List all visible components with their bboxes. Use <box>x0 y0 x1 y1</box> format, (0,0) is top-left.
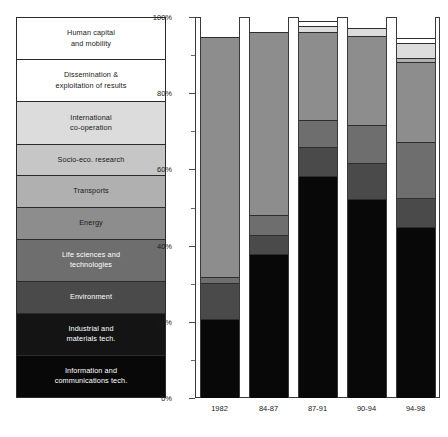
bar-segment <box>250 236 288 255</box>
legend-item: Energy <box>17 208 165 240</box>
bar-segment <box>397 228 435 398</box>
legend-item-label: Transports <box>73 186 109 197</box>
bar-segment <box>348 164 386 200</box>
bar-segment <box>348 200 386 398</box>
bar-segment <box>299 121 337 149</box>
y-axis-tick <box>189 93 195 94</box>
category-legend: Human capital and mobilityDissemination … <box>16 17 166 398</box>
bar-segment <box>397 63 435 143</box>
y-axis-tick <box>189 246 195 247</box>
legend-item: International co-operation <box>17 102 165 144</box>
bar-segment <box>250 216 288 236</box>
legend-item-label: International co-operation <box>70 113 112 134</box>
y-axis-tick-label: 60% <box>132 165 172 174</box>
x-axis-tick-label: 87-91 <box>308 404 327 413</box>
legend-item-label: Industrial and materials tech. <box>67 324 116 345</box>
y-axis-tick-label: 40% <box>132 241 172 250</box>
y-axis-minor-tick <box>191 55 195 56</box>
bar-segment <box>201 17 239 38</box>
legend-item: Human capital and mobility <box>17 18 165 60</box>
legend-item-label: Energy <box>79 218 103 229</box>
bar-segment <box>397 17 435 39</box>
bar-segment <box>348 29 386 37</box>
bar-stack <box>396 17 436 398</box>
y-axis-tick-label: 100% <box>132 13 172 22</box>
legend-item-label: Dissemination & exploitation of results <box>56 70 127 91</box>
legend-item-label: Life sciences and technologies <box>62 250 120 271</box>
x-axis-tick-label: 1982 <box>211 404 228 413</box>
bar-segment <box>397 143 435 198</box>
legend-item: Transports <box>17 176 165 208</box>
y-axis-minor-tick <box>191 284 195 285</box>
legend-item-label: Information and communications tech. <box>55 366 128 387</box>
bar-segment <box>348 17 386 29</box>
y-axis-minor-tick <box>191 131 195 132</box>
x-axis-tick-label: 84-87 <box>259 404 278 413</box>
bar-segment <box>250 33 288 216</box>
y-axis-tick <box>189 322 195 323</box>
legend-item-label: Socio-eco. research <box>58 155 125 166</box>
x-axis-tick-label: 94-98 <box>406 404 425 413</box>
legend-item-label: Human capital and mobility <box>67 28 115 49</box>
bar-segment <box>201 38 239 278</box>
bar-stack <box>298 17 338 398</box>
y-axis-tick-label: 20% <box>132 317 172 326</box>
bar-segment <box>250 17 288 33</box>
bar-segment <box>250 255 288 398</box>
bar-segment <box>397 44 435 58</box>
y-axis-tick-label: 80% <box>132 89 172 98</box>
y-axis-tick <box>189 169 195 170</box>
y-axis-minor-tick <box>191 360 195 361</box>
x-axis-tick-label: 90-94 <box>357 404 376 413</box>
bar-segment <box>201 284 239 320</box>
y-axis-tick <box>189 398 195 399</box>
bar-stack <box>347 17 387 398</box>
bar-segment <box>299 177 337 398</box>
bar-segment <box>201 320 239 398</box>
bar-segment <box>299 33 337 121</box>
bar-segment <box>348 37 386 127</box>
legend-item: Environment <box>17 282 165 314</box>
legend-item-label: Environment <box>70 292 112 303</box>
legend-item: Information and communications tech. <box>17 356 165 397</box>
bar-stack <box>249 17 289 398</box>
bar-segment <box>299 148 337 177</box>
stacked-bar-chart: 0%20%40%60%80%100%198284-8787-9190-9494-… <box>176 8 444 430</box>
bar-segment <box>348 126 386 163</box>
y-axis-minor-tick <box>191 208 195 209</box>
y-axis-tick <box>189 17 195 18</box>
bar-segment <box>397 199 435 229</box>
bar-stack <box>200 17 240 398</box>
y-axis-tick-label: 0% <box>132 394 172 403</box>
figure-root: Human capital and mobilityDissemination … <box>0 0 448 437</box>
